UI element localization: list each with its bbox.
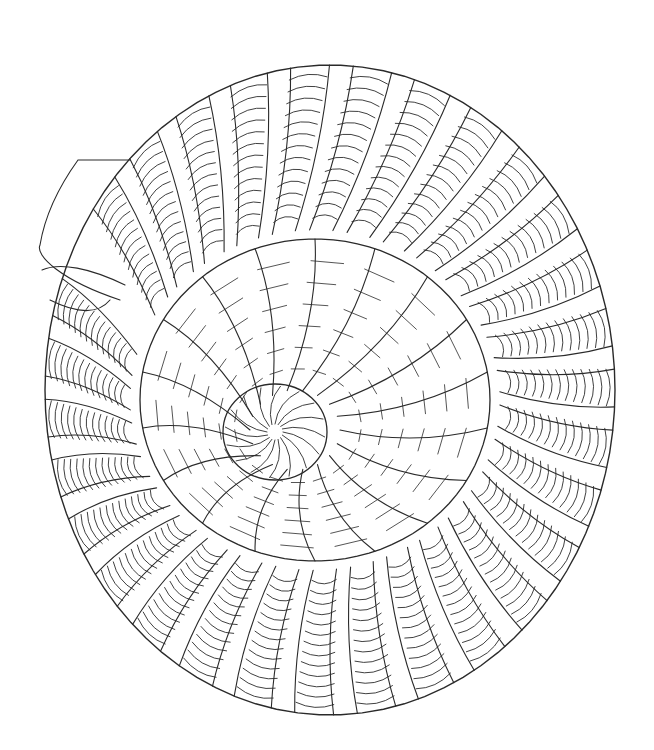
shell-outer-contour [39,65,615,715]
shell-inner-whorl [140,239,490,561]
shell-drawing [0,0,654,750]
shell-illustration [0,0,654,750]
shell-core [223,384,327,480]
shell-outer-ribs [45,65,615,715]
